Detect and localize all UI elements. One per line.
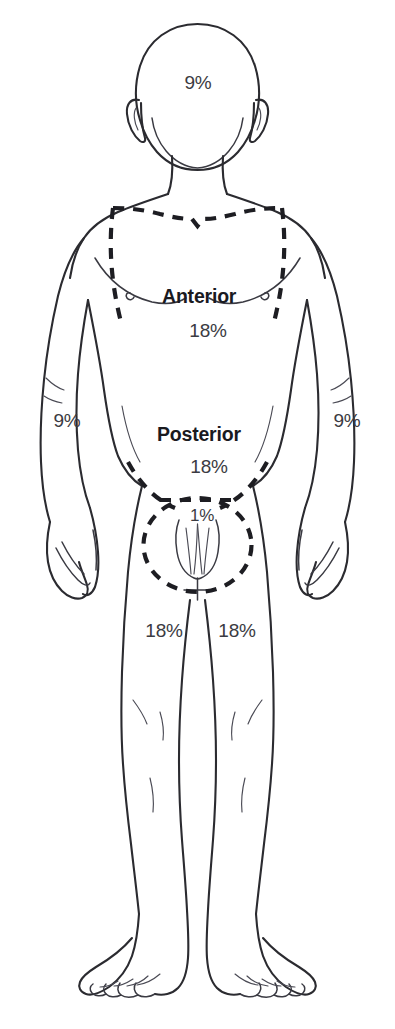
anterior-percent-label: 18%: [186, 320, 230, 342]
right-torso-divider: [274, 208, 284, 322]
left-torso-divider: [111, 208, 121, 322]
posterior-percent-label: 18%: [187, 456, 231, 478]
posterior-region-label: Posterior: [157, 423, 239, 446]
genitalia-percent-label: 1%: [185, 506, 219, 526]
clavicle-divider: [113, 208, 282, 226]
left-leg-percent-label: 18%: [142, 620, 186, 642]
right-leg-percent-label: 18%: [215, 620, 259, 642]
anterior-region-label: Anterior: [162, 285, 234, 308]
rule-of-nines-diagram: 9% Anterior 18% Posterior 18% 9% 9% 1% 1…: [0, 0, 395, 1029]
left-arm-percent-label: 9%: [47, 410, 87, 432]
head-group: [127, 24, 268, 170]
feet-group: [79, 910, 316, 997]
right-arm-percent-label: 9%: [327, 410, 367, 432]
head-percent-label: 9%: [178, 72, 218, 94]
